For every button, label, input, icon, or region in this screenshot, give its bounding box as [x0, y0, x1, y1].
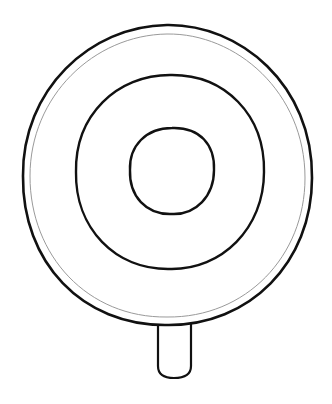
outer-ring	[23, 25, 312, 325]
lollipop-stick	[158, 323, 191, 378]
illustration-canvas	[0, 0, 332, 404]
lollipop-illustration	[0, 0, 332, 404]
